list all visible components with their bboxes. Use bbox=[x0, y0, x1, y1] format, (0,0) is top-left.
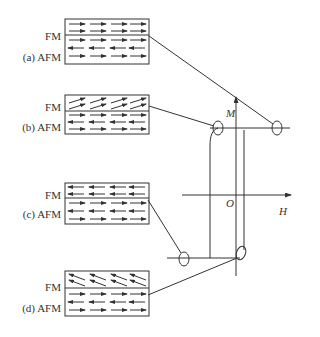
fm-layer-arrows-tilted-up-left bbox=[69, 274, 146, 286]
leader-c bbox=[148, 200, 181, 253]
panel-a-afm-label: (a) AFM bbox=[23, 51, 61, 63]
fm-layer-arrows-left bbox=[68, 187, 145, 194]
panel-b-fm-label: FM bbox=[45, 101, 61, 113]
panel-d-fm-label: FM bbox=[45, 281, 61, 293]
state-markers bbox=[179, 121, 282, 266]
afm-layer-arrows bbox=[68, 203, 146, 219]
panel-b-afm-label: (b) AFM bbox=[22, 121, 61, 133]
afm-layer-arrows bbox=[68, 115, 146, 129]
h-axis-label: H bbox=[279, 205, 287, 217]
panel-d-spin-box bbox=[65, 271, 149, 316]
m-axis-label: M bbox=[226, 107, 235, 119]
afm-layer-arrows bbox=[68, 40, 146, 56]
panel-c-spin-box bbox=[65, 183, 149, 224]
panel-a-spin-box bbox=[65, 19, 149, 64]
leader-d bbox=[148, 258, 237, 295]
panel-d-afm-label: (d) AFM bbox=[22, 302, 61, 314]
panel-a-fm-label: FM bbox=[45, 30, 61, 42]
panel-b-spin-box bbox=[65, 95, 149, 134]
afm-layer-arrows bbox=[68, 294, 146, 310]
leader-a bbox=[149, 36, 273, 124]
panel-c-afm-label: (c) AFM bbox=[23, 208, 61, 220]
panel-c-fm-label: FM bbox=[45, 189, 61, 201]
fm-layer-arrows-tilted-up-right bbox=[69, 98, 146, 109]
marker-c bbox=[179, 252, 189, 266]
origin-label: O bbox=[226, 197, 234, 209]
hysteresis-loop bbox=[167, 128, 290, 258]
fm-layer-arrows-right bbox=[69, 24, 146, 31]
leader-b bbox=[149, 106, 214, 126]
